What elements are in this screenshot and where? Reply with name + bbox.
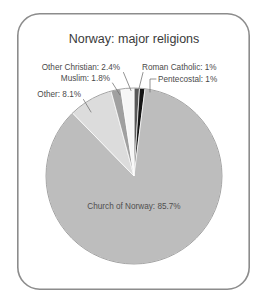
- chart-title: Norway: major religions: [69, 32, 200, 46]
- label-muslim: Muslim: 1.8%: [61, 74, 110, 83]
- label-church-of-norway: Church of Norway: 85.7%: [87, 202, 180, 211]
- label-roman-catholic: Roman Catholic: 1%: [142, 63, 217, 72]
- pie-chart-figure: Norway: major religions Other Christian:…: [0, 0, 266, 302]
- label-pentecostal: Pentecostal: 1%: [158, 75, 217, 84]
- label-other: Other: 8.1%: [37, 90, 81, 99]
- pie-slices-group: [46, 88, 222, 264]
- label-other-christian: Other Christian: 2.4%: [42, 63, 120, 72]
